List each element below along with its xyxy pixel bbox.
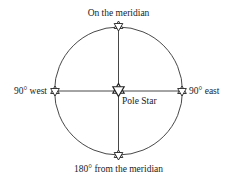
label-on-meridian: On the meridian	[88, 8, 150, 18]
star-of-david-icon	[113, 84, 124, 97]
label-90-east: 90° east	[189, 86, 220, 96]
star-of-david-icon	[114, 21, 123, 31]
label-90-west: 90° west	[14, 86, 47, 96]
pole-star	[113, 84, 124, 97]
star-of-david-icon	[114, 150, 123, 160]
star-180-from-meridian	[114, 150, 123, 160]
pole-star-diagram: On the meridian 90° west 90° east 180° f…	[0, 0, 229, 185]
label-pole-star: Pole Star	[122, 96, 157, 106]
star-of-david-icon	[51, 86, 60, 96]
star-90-west	[51, 86, 60, 96]
star-of-david-icon	[178, 86, 187, 96]
star-on-meridian	[114, 21, 123, 31]
star-90-east	[178, 86, 187, 96]
label-180-from-meridian: 180° from the meridian	[74, 164, 163, 174]
